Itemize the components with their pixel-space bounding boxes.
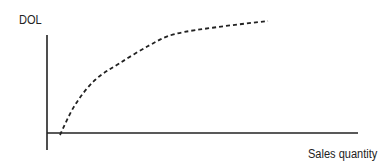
x-axis-label: Sales quantity	[308, 147, 377, 161]
chart-area: DOL Sales quantity	[0, 0, 389, 163]
dol-curve	[60, 21, 268, 135]
chart-svg	[0, 0, 389, 163]
y-axis-label: DOL	[19, 13, 42, 27]
